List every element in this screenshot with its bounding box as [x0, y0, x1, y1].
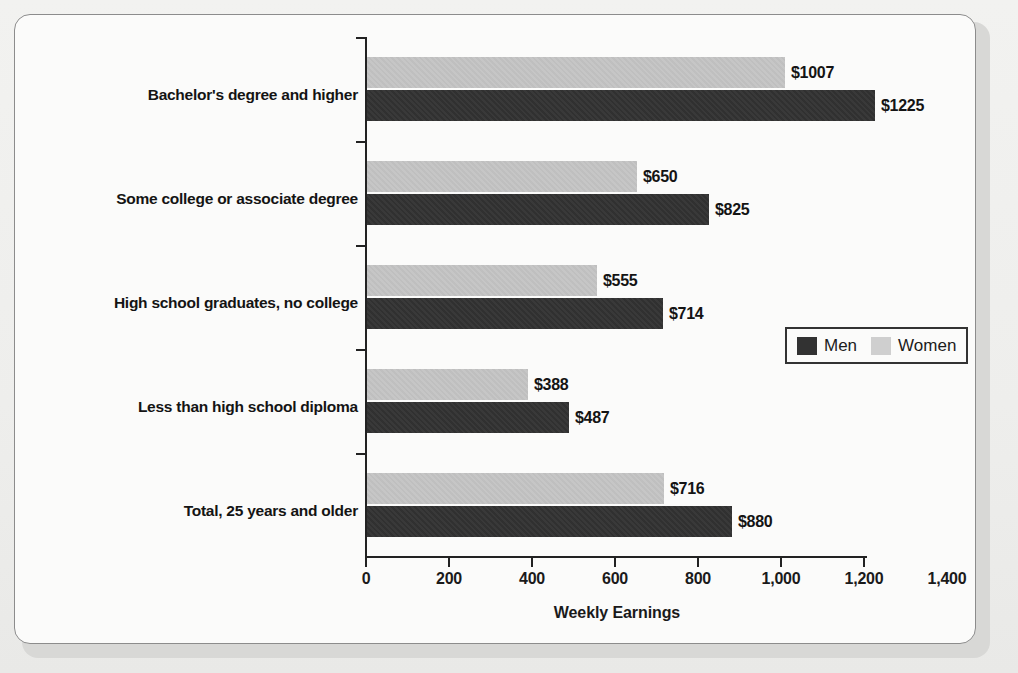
x-axis-tick-label: 400: [519, 570, 545, 588]
bar-women: [367, 57, 785, 88]
category-label: High school graduates, no college: [114, 294, 358, 312]
x-axis-tick-label: 600: [602, 570, 628, 588]
y-axis-tick: [356, 245, 366, 247]
x-axis-tick: [863, 557, 865, 567]
bar-men: [367, 298, 663, 329]
y-axis-tick: [356, 453, 366, 455]
legend-item-women: Women: [871, 336, 956, 356]
bar-men: [367, 90, 875, 121]
x-axis-tick-label: 1,200: [844, 570, 883, 588]
x-axis-tick: [448, 557, 450, 567]
bar-women: [367, 369, 528, 400]
legend-item-men: Men: [797, 336, 857, 356]
bar-men: [367, 194, 709, 225]
x-axis-tick-label: 0: [362, 570, 371, 588]
bar-value-label: $487: [575, 409, 609, 427]
x-axis-tick: [697, 557, 699, 567]
bar-value-label: $1007: [791, 64, 834, 82]
bar-women: [367, 265, 597, 296]
x-axis-tick-label: 1,000: [761, 570, 800, 588]
x-axis-tick: [365, 557, 367, 567]
figure-page: 0 200 400 600 800 1,000 1,200 1,400 Week…: [0, 0, 1018, 673]
bar-men: [367, 402, 569, 433]
x-axis-tick-label: 1,400: [927, 570, 966, 588]
x-axis-tick: [531, 557, 533, 567]
bar-value-label: $716: [670, 480, 704, 498]
y-axis-tick: [356, 349, 366, 351]
bar-value-label: $388: [534, 376, 568, 394]
bar-value-label: $650: [643, 168, 677, 186]
bar-value-label: $880: [738, 513, 772, 531]
category-label: Less than high school diploma: [138, 398, 358, 416]
category-label: Bachelor's degree and higher: [148, 86, 358, 104]
category-label: Total, 25 years and older: [184, 502, 358, 520]
y-axis-tick: [356, 141, 366, 143]
bar-chart-plot: 0 200 400 600 800 1,000 1,200 1,400 Week…: [0, 0, 1018, 673]
x-axis-tick: [614, 557, 616, 567]
legend-swatch-women-icon: [871, 337, 891, 355]
bar-women: [367, 161, 637, 192]
legend-swatch-men-icon: [797, 337, 817, 355]
bar-men: [367, 506, 732, 537]
x-axis-title: Weekly Earnings: [366, 604, 868, 622]
chart-legend: Men Women: [785, 327, 968, 364]
category-label: Some college or associate degree: [116, 190, 358, 208]
bar-value-label: $555: [603, 272, 637, 290]
legend-label-women: Women: [898, 336, 956, 356]
legend-label-men: Men: [824, 336, 857, 356]
bar-value-label: $825: [715, 201, 749, 219]
y-axis-tick: [356, 37, 366, 39]
bar-women: [367, 473, 664, 504]
bar-value-label: $714: [669, 305, 703, 323]
x-axis-tick: [780, 557, 782, 567]
x-axis-tick-label: 200: [436, 570, 462, 588]
x-axis-line: [365, 556, 867, 558]
bar-value-label: $1225: [881, 97, 924, 115]
x-axis-tick-label: 800: [685, 570, 711, 588]
